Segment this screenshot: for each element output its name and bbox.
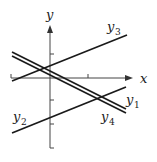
svg-text:2: 2 — [21, 117, 27, 127]
line-y1 — [12, 52, 126, 109]
svg-text:y: y — [12, 109, 21, 124]
y-axis-label: y — [45, 7, 54, 22]
x-axis-label: x — [140, 71, 148, 86]
y-axis — [50, 30, 54, 148]
svg-text:y: y — [100, 109, 109, 124]
plot-canvas: y x y 3 y 1 y 2 y 4 — [0, 0, 157, 162]
x-axis-arrow-icon — [125, 75, 133, 81]
svg-text:y: y — [125, 92, 134, 107]
svg-text:3: 3 — [115, 27, 121, 37]
label-y2: y 2 — [12, 109, 27, 127]
svg-text:1: 1 — [134, 100, 140, 110]
svg-text:y: y — [106, 19, 115, 34]
y-axis-arrow-icon — [47, 25, 53, 33]
label-y1: y 1 — [125, 92, 140, 110]
label-y3: y 3 — [106, 19, 121, 37]
line-y3 — [12, 35, 127, 81]
line-y4 — [12, 56, 126, 113]
label-y4: y 4 — [100, 109, 115, 127]
linear-functions-diagram: y x y 3 y 1 y 2 y 4 — [0, 0, 157, 162]
svg-text:4: 4 — [109, 117, 115, 127]
